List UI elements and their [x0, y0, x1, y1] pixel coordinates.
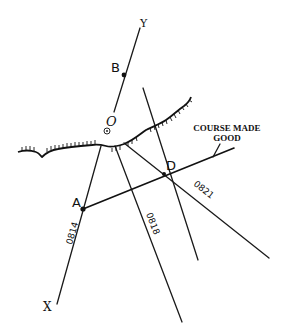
bearing-line-0821 — [124, 143, 269, 258]
point-a-marker — [80, 206, 85, 211]
course-made-good-line — [83, 148, 234, 209]
annotation-line-1: COURSE MADE — [193, 123, 260, 133]
bearing-label-0814: 0814 — [64, 221, 80, 246]
coastline — [18, 97, 191, 157]
bearing-label-0818: 0818 — [144, 211, 162, 236]
label-d: D — [166, 158, 176, 173]
point-b-marker — [122, 73, 127, 78]
label-x: X — [43, 300, 52, 314]
label-a: A — [72, 195, 81, 210]
label-o: O — [106, 114, 117, 129]
navigation-diagram: Y B O A D X 0814 0818 0821 COURSE MADE G… — [0, 0, 284, 327]
annotation-line-2: GOOD — [213, 133, 241, 143]
label-y: Y — [139, 17, 148, 30]
bearing-label-0821: 0821 — [192, 179, 216, 201]
label-b: B — [111, 60, 120, 75]
